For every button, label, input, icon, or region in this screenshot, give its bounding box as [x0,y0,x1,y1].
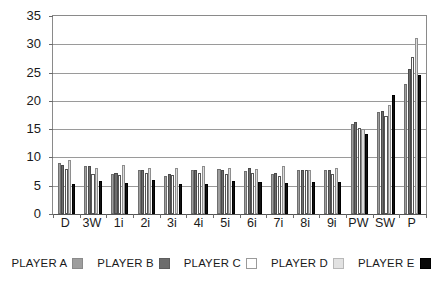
y-tick-label: 0 [34,207,41,220]
bar-group [346,16,373,214]
y-tick-mark [49,73,53,74]
y-tick-label: 20 [27,93,41,106]
bar-group [80,16,107,214]
legend-item: PLAYER E [358,257,430,269]
y-tick-mark [49,186,53,187]
x-tick-label: 5i [220,216,230,231]
bar [232,181,235,214]
legend-label: PLAYER C [184,257,241,269]
chart-legend: PLAYER APLAYER BPLAYER CPLAYER DPLAYER E [0,248,442,278]
legend-item: PLAYER C [184,257,257,269]
x-tick-label: D [61,216,70,231]
bar-group [186,16,213,214]
bar-group [53,16,80,214]
x-tick-mark [426,214,427,218]
bar [365,134,368,214]
x-tick-label: 2i [140,216,150,231]
x-axis-labels: D3W1i2i3i4i5i6i7i8i9iPWSWP [52,216,425,238]
bar-group [133,16,160,214]
bar [99,181,102,214]
y-tick-label: 10 [27,150,41,163]
bar-group [106,16,133,214]
bar [285,183,288,214]
x-tick-label: PW [348,216,368,231]
bar [125,183,128,214]
y-tick-label: 15 [27,122,41,135]
plot-area [52,15,427,215]
bar-group [160,16,187,214]
x-tick-label: 7i [274,216,284,231]
bar [179,184,182,214]
bar [258,182,261,214]
bar [338,182,341,214]
y-tick-label: 5 [34,178,41,191]
bar-group [399,16,426,214]
x-tick-label: P [408,216,416,231]
bar-chart: 05101520253035 D3W1i2i3i4i5i6i7i8i9iPWSW… [0,0,442,286]
legend-item: PLAYER B [97,257,169,269]
legend-swatch [420,258,431,269]
y-axis-labels: 05101520253035 [0,0,46,240]
plot-wrapper: 05101520253035 D3W1i2i3i4i5i6i7i8i9iPWSW… [0,0,442,240]
x-tick-label: 8i [300,216,310,231]
x-tick-label: 6i [247,216,257,231]
bars-layer [53,16,426,214]
x-tick-label: 4i [194,216,204,231]
x-tick-label: 3W [83,216,102,231]
bar [152,180,155,215]
legend-swatch [333,258,344,269]
legend-swatch [246,258,257,269]
x-tick-label: SW [375,216,395,231]
y-tick-mark [49,157,53,158]
y-tick-mark [49,16,53,17]
y-tick-label: 35 [27,9,41,22]
y-tick-mark [49,44,53,45]
legend-label: PLAYER B [97,257,153,269]
legend-label: PLAYER E [358,257,414,269]
bar [418,75,421,214]
bar-group [266,16,293,214]
legend-item: PLAYER D [271,257,344,269]
bar-group [373,16,400,214]
bar-group [293,16,320,214]
bar [312,182,315,214]
bar [72,184,75,214]
bar [392,95,395,214]
legend-label: PLAYER D [271,257,328,269]
x-tick-label: 1i [114,216,124,231]
bar-group [240,16,267,214]
legend-label: PLAYER A [12,257,68,269]
y-tick-mark [49,129,53,130]
legend-swatch [72,258,83,269]
bar [205,184,208,214]
x-tick-label: 3i [167,216,177,231]
legend-swatch [159,258,170,269]
y-tick-label: 30 [27,37,41,50]
legend-item: PLAYER A [12,257,84,269]
y-tick-mark [49,101,53,102]
bar-group [213,16,240,214]
bar-group [319,16,346,214]
x-tick-label: 9i [327,216,337,231]
y-tick-label: 25 [27,65,41,78]
